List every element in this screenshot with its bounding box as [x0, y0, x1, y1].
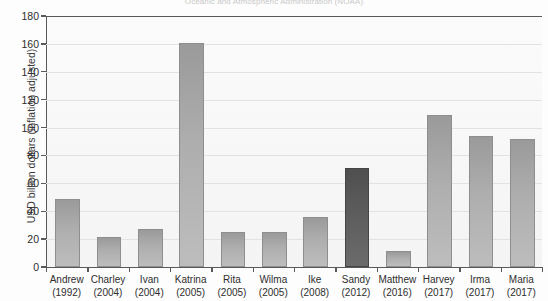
bar-wilma[interactable]	[262, 232, 287, 267]
hurricane-name: Matthew	[377, 274, 418, 287]
hurricane-name: Charley	[87, 274, 128, 287]
bar-ivan[interactable]	[138, 229, 163, 267]
x-tick-label: Sandy(2012)	[335, 274, 376, 299]
bar-chart: Oceanic and Atmospheric Administration (…	[0, 0, 548, 301]
x-tick-mark	[170, 267, 171, 272]
y-tick-mark	[41, 238, 46, 239]
y-tick-label: 160	[3, 38, 39, 50]
bar-ike[interactable]	[303, 217, 328, 267]
hurricane-name: Harvey	[418, 274, 459, 287]
x-tick-mark	[294, 267, 295, 272]
x-tick-label: Ike(2008)	[294, 274, 335, 299]
bar-sandy[interactable]	[345, 168, 370, 267]
x-tick-label: Andrew(1992)	[46, 274, 87, 299]
y-tick-mark	[41, 211, 46, 212]
y-tick-mark	[41, 71, 46, 72]
y-tick-label: 120	[3, 94, 39, 106]
x-tick-label: Maria(2017)	[501, 274, 542, 299]
hurricane-year: (2005)	[170, 287, 211, 300]
hurricane-year: (2016)	[377, 287, 418, 300]
hurricane-year: (2012)	[335, 287, 376, 300]
hurricane-year: (2004)	[129, 287, 170, 300]
hurricane-year: (2017)	[418, 287, 459, 300]
hurricane-name: Sandy	[335, 274, 376, 287]
hurricane-year: (2004)	[87, 287, 128, 300]
x-tick-mark	[87, 267, 88, 272]
y-tick-mark	[41, 99, 46, 100]
hurricane-name: Rita	[211, 274, 252, 287]
x-tick-label: Katrina(2005)	[170, 274, 211, 299]
x-tick-mark	[501, 267, 502, 272]
x-tick-label: Harvey(2017)	[418, 274, 459, 299]
hurricane-name: Ivan	[129, 274, 170, 287]
x-tick-mark	[377, 267, 378, 272]
bar-irma[interactable]	[469, 136, 494, 267]
y-tick-label: 0	[3, 261, 39, 273]
x-tick-mark	[129, 267, 130, 272]
hurricane-year: (2017)	[459, 287, 500, 300]
bar-harvey[interactable]	[427, 115, 452, 267]
y-tick-label: 40	[3, 205, 39, 217]
x-tick-mark	[253, 267, 254, 272]
chart-title: Oceanic and Atmospheric Administration (…	[0, 0, 548, 7]
y-tick-label: 60	[3, 177, 39, 189]
hurricane-year: (2017)	[501, 287, 542, 300]
bar-maria[interactable]	[510, 139, 535, 267]
hurricane-year: (2008)	[294, 287, 335, 300]
hurricane-name: Maria	[501, 274, 542, 287]
y-tick-label: 80	[3, 149, 39, 161]
hurricane-name: Andrew	[46, 274, 87, 287]
x-tick-mark	[335, 267, 336, 272]
bars-group	[47, 16, 542, 267]
x-tick-mark	[211, 267, 212, 272]
y-tick-label: 20	[3, 233, 39, 245]
y-tick-mark	[41, 183, 46, 184]
bar-katrina[interactable]	[179, 43, 204, 268]
y-tick-mark	[41, 127, 46, 128]
hurricane-name: Ike	[294, 274, 335, 287]
bar-charley[interactable]	[97, 237, 122, 267]
hurricane-name: Irma	[459, 274, 500, 287]
y-tick-mark	[41, 43, 46, 44]
x-tick-mark	[46, 267, 47, 272]
y-tick-label: 140	[3, 66, 39, 78]
x-tick-label: Wilma(2005)	[253, 274, 294, 299]
bar-matthew[interactable]	[386, 251, 411, 267]
hurricane-year: (2005)	[253, 287, 294, 300]
hurricane-name: Katrina	[170, 274, 211, 287]
x-tick-mark	[542, 267, 543, 272]
x-tick-label: Charley(2004)	[87, 274, 128, 299]
hurricane-name: Wilma	[253, 274, 294, 287]
y-tick-label: 100	[3, 122, 39, 134]
y-tick-mark	[41, 155, 46, 156]
y-tick-mark	[41, 15, 46, 16]
hurricane-year: (1992)	[46, 287, 87, 300]
x-tick-mark	[459, 267, 460, 272]
bar-andrew[interactable]	[55, 199, 80, 267]
x-tick-mark	[418, 267, 419, 272]
y-tick-label: 180	[3, 10, 39, 22]
y-axis-tick-labels: 020406080100120140160180	[0, 0, 39, 301]
x-tick-label: Rita(2005)	[211, 274, 252, 299]
x-tick-label: Irma(2017)	[459, 274, 500, 299]
bar-rita[interactable]	[221, 232, 246, 267]
x-tick-label: Matthew(2016)	[377, 274, 418, 299]
x-tick-label: Ivan(2004)	[129, 274, 170, 299]
hurricane-year: (2005)	[211, 287, 252, 300]
